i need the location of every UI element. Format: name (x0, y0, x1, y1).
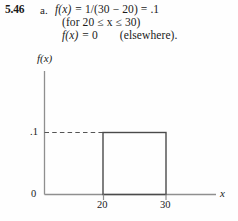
problem-part-letter: a. (40, 4, 48, 16)
problem-number: 5.46 (5, 3, 24, 15)
equation-line-1-function: f(x) (55, 3, 71, 15)
textbook-figure-page: 5.46 a. f(x)= 1/(30 − 20) = .1 (for 20 ≤… (0, 0, 238, 221)
equation-line-2: (for 20 ≤ x ≤ 30) (62, 16, 141, 28)
equation-line-3-note: (elsewhere). (120, 29, 178, 41)
x-tick-label-30: 30 (160, 199, 171, 210)
x-axis-label: x (220, 187, 225, 199)
equation-line-1: f(x)= 1/(30 − 20) = .1 (55, 3, 159, 15)
y-tick-label-0: 0 (31, 188, 36, 199)
density-rectangle (103, 133, 166, 195)
equation-line-3-expression: = 0 (82, 29, 97, 41)
uniform-density-chart: f(x) x .1 0 20 30 (0, 44, 238, 221)
equation-line-1-expression: = 1/(30 − 20) = .1 (75, 3, 159, 15)
equation-line-3: f(x)= 0(elsewhere). (62, 29, 178, 41)
x-tick-label-20: 20 (97, 199, 108, 210)
y-axis-label: f(x) (37, 52, 52, 64)
y-tick-label-0.1: .1 (30, 126, 38, 137)
equation-line-3-function: f(x) (62, 29, 78, 41)
